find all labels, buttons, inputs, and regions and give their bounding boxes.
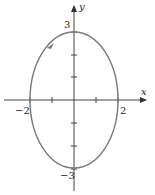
y-pos-label: 3	[64, 19, 70, 30]
ellipse-chart: x y −2 2 3 −3	[0, 0, 155, 195]
x-neg-label: −2	[15, 105, 30, 116]
x-axis-label: x	[141, 86, 147, 97]
y-axis-label: y	[78, 1, 85, 12]
y-neg-label: −3	[60, 170, 75, 181]
x-pos-label: 2	[120, 105, 126, 116]
